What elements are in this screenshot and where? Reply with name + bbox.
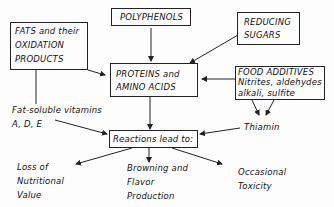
node-food-additives: FOOD ADDITIVES Nitrites, aldehydes alkal… [235, 66, 325, 100]
loss-line-2: Nutritional [17, 176, 64, 187]
arrow-fats-proteins [88, 70, 105, 75]
vitamins-line-2: A, D, E [12, 119, 42, 130]
proteins-line-1: PROTEINS and [116, 69, 180, 80]
toxicity-line-1: Occasional [238, 167, 286, 178]
arrow-sugars-proteins [190, 35, 238, 63]
fats-line-2: OXIDATION [15, 40, 64, 51]
arrow-reactions-loss [76, 148, 132, 164]
loss-line-3: Value [17, 190, 41, 201]
loss-line-1: Loss of [17, 162, 48, 173]
browning-line-1: Browning and [127, 163, 188, 174]
arrow-thiamin-reactions [200, 128, 240, 134]
polyphenols-label: POLYPHENOLS [120, 12, 183, 23]
node-polyphenols: POLYPHENOLS [111, 8, 191, 26]
reducing-sugars-line-1: REDUCING [244, 17, 291, 28]
proteins-line-2: AMINO ACIDS [116, 82, 176, 93]
node-reducing-sugars: REDUCING SUGARS [237, 12, 300, 45]
node-reactions: Reactions lead to: [109, 130, 198, 148]
fats-line-1: FATS and their [15, 26, 79, 37]
browning-line-3: Production [127, 191, 175, 202]
node-proteins: PROTEINS and AMINO ACIDS [110, 63, 198, 97]
node-fats: FATS and their OXIDATION PRODUCTS [10, 22, 88, 70]
fats-line-3: PRODUCTS [15, 54, 64, 65]
arrow-additives-thiamin-2 [266, 100, 274, 115]
arrow-reactions-toxicity [172, 148, 222, 164]
vitamins-line-1: Fat-soluble vitamins [12, 105, 102, 116]
reactions-label: Reactions lead to: [113, 134, 193, 145]
toxicity-line-2: Toxicity [238, 181, 272, 192]
thiamin-label: Thiamin [244, 122, 280, 133]
diagram-canvas: FATS and their OXIDATION PRODUCTS POLYPH… [0, 0, 334, 207]
arrow-vitamins-reactions [55, 120, 107, 134]
food-additives-line-2: Nitrites, aldehydes [238, 77, 322, 88]
browning-line-2: Flavor [127, 177, 154, 188]
reducing-sugars-line-2: SUGARS [244, 30, 281, 41]
food-additives-line-3: alkali, sulfite [238, 88, 295, 99]
arrow-additives-thiamin-1 [252, 100, 259, 115]
